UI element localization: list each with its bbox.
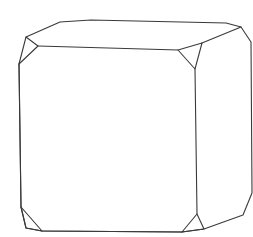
outer-outline: [19, 20, 252, 232]
top-right-edge: [202, 27, 241, 43]
top-right-facet: [178, 43, 202, 69]
bottom-left-facet: [21, 207, 42, 231]
truncated-cube-diagram: [0, 0, 253, 237]
front-face: [19, 46, 197, 232]
top-left-facet: [19, 37, 38, 64]
bottom-right-facet: [182, 214, 204, 232]
